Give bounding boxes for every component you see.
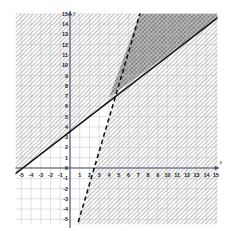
y-tick-label: -4 [63,206,68,212]
y-tick-label: 1 [65,155,68,161]
x-tick-label: 8 [146,172,149,178]
x-tick-label: 1 [78,172,81,178]
y-axis-arrow-icon [68,11,73,15]
x-tick-label: -1 [58,172,63,178]
y-tick-label: 14 [62,21,68,27]
x-tick-label: 6 [127,172,130,178]
x-tick-label: 13 [194,172,200,178]
x-tick-label: 12 [184,172,190,178]
x-tick-label: 3 [98,172,101,178]
y-tick-label: 10 [62,62,68,68]
y-tick-label: 4 [65,124,68,130]
x-tick-label: -2 [48,172,53,178]
y-tick-label: -3 [63,196,68,202]
y-tick-label: 8 [65,83,68,89]
x-tick-label: 2 [88,172,91,178]
x-tick-label: -4 [29,172,34,178]
graph-screenshot: -5 -4 -3 -2 -1 1 2 3 4 5 6 7 8 9 10 11 1… [0,0,228,231]
y-tick-label: 13 [62,31,68,37]
x-tick-label: 7 [137,172,140,178]
y-tick-label: -5 [63,216,68,222]
y-tick-label: -1 [63,175,68,181]
y-tick-label: 5 [65,114,68,120]
x-tick-label: 14 [203,172,209,178]
y-axis-label: y [72,10,76,16]
y-tick-label: 15 [62,11,68,17]
x-tick-label: 9 [156,172,159,178]
y-tick-label-zero: 0 [65,165,68,171]
x-axis-tick-labels: -5 -4 -3 -2 -1 1 2 3 4 5 6 7 8 9 10 11 1… [19,172,219,178]
y-tick-label: 3 [65,134,68,140]
y-tick-label: 6 [65,103,68,109]
y-tick-label: -2 [63,186,68,192]
x-tick-label: 15 [213,172,219,178]
x-axis-label: x [219,159,223,165]
y-tick-label: 11 [62,52,68,58]
x-tick-label: -3 [38,172,43,178]
x-tick-label: 4 [108,172,111,178]
coordinate-plane-figure: -5 -4 -3 -2 -1 1 2 3 4 5 6 7 8 9 10 11 1… [0,0,228,231]
x-tick-label: 5 [117,172,120,178]
x-tick-label: 10 [164,172,170,178]
y-tick-label: 12 [62,42,68,48]
x-tick-label: -5 [19,172,24,178]
y-tick-label: 9 [65,73,68,79]
y-tick-label: 2 [65,144,68,150]
x-tick-label: 11 [174,172,180,178]
y-tick-label: 7 [65,93,68,99]
